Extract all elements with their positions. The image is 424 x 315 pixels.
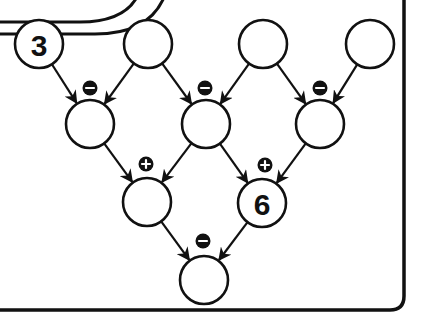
- pyramid-node-r0c3[interactable]: [346, 20, 394, 68]
- plus-operator-icon: [258, 158, 273, 173]
- arrow-edge: [219, 222, 248, 260]
- pyramid-diagram: 36: [0, 0, 424, 315]
- node-circle[interactable]: [346, 20, 394, 68]
- arrow-edge: [104, 143, 132, 181]
- plus-operator-icon: [139, 157, 154, 172]
- arrow-edge: [221, 64, 250, 104]
- node-value: 3: [31, 29, 48, 62]
- pyramid-node-r1c1[interactable]: [182, 100, 230, 148]
- node-circle[interactable]: [124, 20, 172, 68]
- node-circle[interactable]: [182, 100, 230, 148]
- pyramid-node-r3c0[interactable]: [180, 256, 228, 304]
- arrow-edge: [277, 64, 306, 104]
- arrow-edge: [105, 63, 134, 103]
- pyramid-node-r2c0[interactable]: [123, 178, 171, 226]
- node-value: 6: [254, 188, 271, 221]
- arrow-edge: [220, 144, 248, 183]
- arrow-edge: [161, 221, 189, 259]
- node-circle[interactable]: [296, 100, 344, 148]
- node-circle[interactable]: [239, 20, 287, 68]
- pyramid-node-r1c2[interactable]: [296, 100, 344, 148]
- node-circle[interactable]: [180, 256, 228, 304]
- minus-operator-icon: [198, 81, 213, 96]
- puzzle-canvas: 36: [0, 0, 424, 315]
- pyramid-node-r1c0[interactable]: [66, 100, 114, 148]
- minus-operator-icon: [196, 234, 211, 249]
- arrow-edge: [333, 64, 357, 102]
- pyramid-node-r0c0[interactable]: 3: [15, 20, 63, 68]
- pyramid-node-r0c1[interactable]: [124, 20, 172, 68]
- arrow-edge: [162, 143, 191, 182]
- node-circle[interactable]: [66, 100, 114, 148]
- pyramid-node-r2c1[interactable]: 6: [238, 179, 286, 227]
- corner-decoration-inner: [0, 0, 138, 22]
- minus-operator-icon: [83, 81, 98, 96]
- arrow-edge: [162, 63, 191, 103]
- arrow-edge: [277, 143, 306, 183]
- minus-operator-icon: [313, 81, 328, 96]
- node-circle[interactable]: [123, 178, 171, 226]
- pyramid-node-r0c2[interactable]: [239, 20, 287, 68]
- arrow-edge: [52, 64, 77, 103]
